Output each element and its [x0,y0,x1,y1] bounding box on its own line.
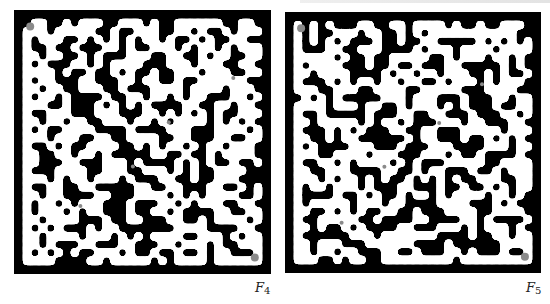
waypoint-marker [340,221,344,225]
cropped-header-text [300,0,550,3]
caption-f5-main: F [526,280,535,295]
waypoint-marker [382,165,386,169]
maze-panel-f4 [14,10,271,274]
goal-marker [251,254,259,262]
caption-f5: F5 [526,280,541,296]
start-marker [297,24,305,32]
maze-image-f4 [14,10,271,274]
start-marker [26,22,34,30]
caption-f4-sub: 4 [264,285,270,296]
maze-panel-f5 [285,12,541,273]
waypoint-marker [437,121,441,125]
waypoint-marker [78,204,82,208]
goal-marker [521,253,529,261]
caption-f4: F4 [255,280,270,296]
waypoint-marker [167,120,171,124]
waypoint-marker [480,82,484,86]
caption-f4-main: F [255,280,264,295]
waypoint-marker [231,76,235,80]
caption-f5-sub: 5 [535,285,541,296]
maze-image-f5 [285,12,541,273]
waypoint-marker [131,165,135,169]
